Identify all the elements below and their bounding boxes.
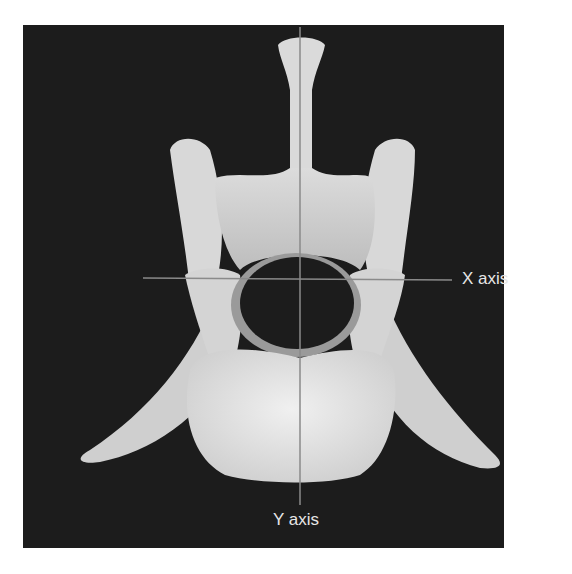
y-axis-label: Y axis (273, 510, 319, 530)
vertebra-illustration (23, 25, 504, 548)
vertebral-foramen (240, 257, 354, 349)
vertebral-body (187, 349, 396, 482)
left-articular-process (170, 139, 222, 290)
spinous-process (278, 38, 325, 171)
vertebra-photo (23, 25, 504, 548)
x-axis-label: X axis (462, 269, 508, 289)
